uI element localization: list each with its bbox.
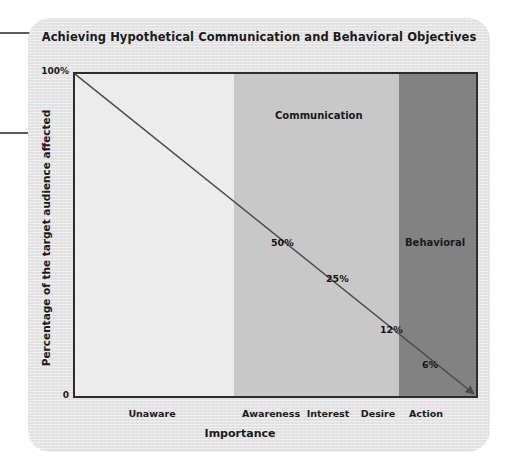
y-axis-tick-100: 100%: [28, 66, 69, 76]
decorative-rule-middle: [0, 132, 30, 134]
x-axis-tick-desire: Desire: [355, 408, 401, 419]
chart-title: Achieving Hypothetical Communication and…: [28, 30, 490, 44]
x-axis-tick-awareness: Awareness: [240, 408, 302, 419]
data-label-6: 6%: [422, 359, 438, 370]
band-label-behavioral: Behavioral: [405, 237, 465, 248]
data-label-12: 12%: [380, 324, 403, 335]
x-axis-title: Importance: [190, 427, 290, 440]
data-label-50: 50%: [271, 237, 294, 248]
x-axis-tick-action: Action: [403, 408, 449, 419]
y-axis-title: Percentage of the target audience affect…: [40, 88, 52, 388]
x-axis-tick-unaware: Unaware: [112, 408, 192, 419]
data-label-25: 25%: [326, 273, 349, 284]
x-axis-tick-interest: Interest: [303, 408, 353, 419]
chart-screenshot: Achieving Hypothetical Communication and…: [0, 0, 508, 465]
y-axis-tick-0: 0: [28, 390, 69, 400]
plot-area: Communication Behavioral 50% 25% 12% 6%: [73, 72, 478, 398]
band-label-communication: Communication: [275, 110, 363, 121]
trend-line: [75, 74, 478, 398]
